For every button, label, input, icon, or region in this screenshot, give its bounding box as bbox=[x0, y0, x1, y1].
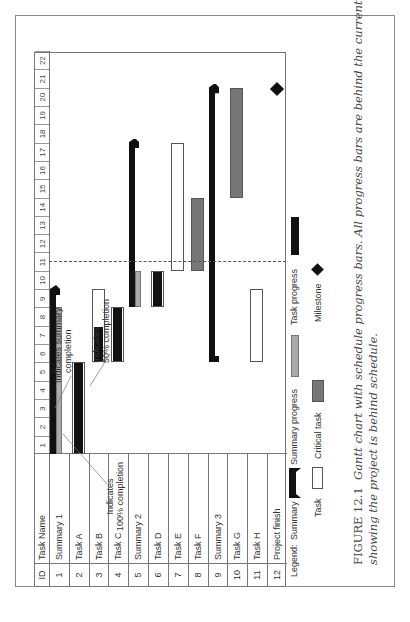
gantt-grid: ID Task Name 123456789101112131415161718… bbox=[34, 52, 286, 587]
legend-task-progress-label: Task progress bbox=[289, 269, 299, 325]
legend-summary-icon bbox=[289, 468, 301, 498]
legend-critical-icon bbox=[312, 380, 324, 402]
legend-task-progress-icon bbox=[291, 217, 299, 255]
legend-critical-label: Critical task bbox=[313, 412, 323, 459]
legend-title: Legend: bbox=[289, 544, 299, 577]
figure-caption-line2: showing the project is behind schedule. bbox=[366, 333, 380, 565]
legend-task-label: Task bbox=[313, 498, 323, 517]
legend-milestone-label: Milestone bbox=[313, 283, 323, 322]
rotated-figure: ID Task Name 123456789101112131415161718… bbox=[0, 0, 410, 622]
legend-summary-progress-label: Summary progress bbox=[289, 389, 299, 465]
legend-summary-progress-icon bbox=[291, 335, 299, 377]
figure-caption-line1: FIGURE 12.1 Gantt chart with schedule pr… bbox=[351, 0, 365, 565]
caption-text: Gantt chart with schedule progress bars.… bbox=[351, 0, 365, 480]
legend-summary-label: Summary bbox=[289, 501, 299, 540]
legend-task-icon bbox=[312, 467, 323, 489]
figure-number: FIGURE 12.1 bbox=[351, 487, 365, 565]
annotation-leaders bbox=[35, 51, 287, 586]
